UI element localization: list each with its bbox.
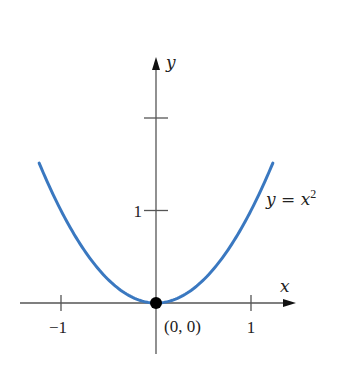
- curve-equation-label: y = x2: [265, 187, 316, 209]
- y-axis-label: y: [165, 52, 176, 72]
- origin-point: [150, 297, 162, 309]
- y-axis-arrow-icon: [152, 57, 160, 70]
- x-tick-label: −1: [49, 318, 67, 337]
- y-tick-label: 1: [134, 202, 143, 221]
- origin-point-label: (0, 0): [164, 317, 201, 336]
- curve-equation-base: y = x: [265, 189, 311, 209]
- x-axis-label: x: [280, 276, 290, 296]
- x-tick-label: 1: [247, 318, 256, 337]
- x-axis-arrow-icon: [283, 299, 296, 307]
- parabola-chart: x y −1 1 1 (0, 0) y = x2: [0, 0, 340, 373]
- curve-equation-exponent: 2: [310, 187, 316, 201]
